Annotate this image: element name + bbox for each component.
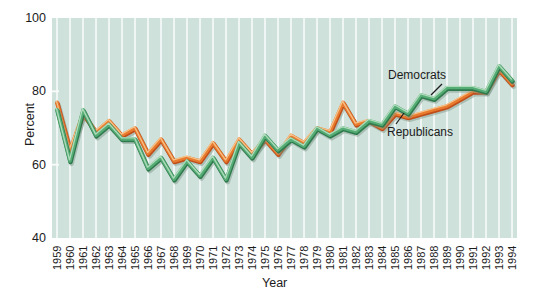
- x-tick-label: 1978: [298, 246, 310, 270]
- x-axis-title: Year: [262, 276, 287, 290]
- x-tick-label: 1986: [402, 246, 414, 270]
- x-tick-label: 1968: [168, 246, 180, 270]
- x-tick-label: 1960: [64, 246, 76, 270]
- y-tick-label: 40: [12, 231, 46, 245]
- x-tick-label: 1993: [493, 246, 505, 270]
- x-tick-label: 1972: [220, 246, 232, 270]
- republicans-series-label: Republicans: [387, 125, 453, 139]
- x-tick-label: 1992: [480, 246, 492, 270]
- y-tick-mark: [52, 90, 59, 92]
- y-tick-label: 60: [12, 158, 46, 172]
- x-tick-label: 1963: [103, 246, 115, 270]
- x-tick-label: 1989: [441, 246, 453, 270]
- x-tick-label: 1977: [285, 246, 297, 270]
- x-tick-label: 1982: [350, 246, 362, 270]
- x-tick-label: 1959: [51, 246, 63, 270]
- x-tick-label: 1965: [129, 246, 141, 270]
- y-axis-title: Percent: [23, 103, 37, 146]
- y-tick-mark: [52, 164, 59, 166]
- x-tick-label: 1983: [363, 246, 375, 270]
- x-tick-label: 1991: [467, 246, 479, 270]
- x-tick-label: 1979: [311, 246, 323, 270]
- x-tick-label: 1973: [233, 246, 245, 270]
- x-tick-label: 1976: [272, 246, 284, 270]
- x-tick-label: 1966: [142, 246, 154, 270]
- x-tick-label: 1994: [506, 246, 518, 270]
- democrats-series-label: Democrats: [388, 68, 446, 82]
- y-tick-label: 100: [12, 11, 46, 25]
- x-tick-label: 1975: [259, 246, 271, 270]
- x-tick-label: 1961: [77, 246, 89, 270]
- party-unity-line-chart: Percent 100806040 1959196019611962196319…: [0, 0, 536, 296]
- x-tick-label: 1974: [246, 246, 258, 270]
- x-tick-label: 1988: [428, 246, 440, 270]
- x-tick-label: 1964: [116, 246, 128, 270]
- x-tick-label: 1980: [324, 246, 336, 270]
- x-tick-label: 1970: [194, 246, 206, 270]
- x-tick-label: 1981: [337, 246, 349, 270]
- x-tick-label: 1971: [207, 246, 219, 270]
- x-tick-label: 1990: [454, 246, 466, 270]
- x-tick-label: 1969: [181, 246, 193, 270]
- x-tick-label: 1962: [90, 246, 102, 270]
- x-tick-label: 1967: [155, 246, 167, 270]
- x-tick-label: 1985: [389, 246, 401, 270]
- x-tick-label: 1987: [415, 246, 427, 270]
- y-tick-label: 80: [12, 84, 46, 98]
- x-tick-label: 1984: [376, 246, 388, 270]
